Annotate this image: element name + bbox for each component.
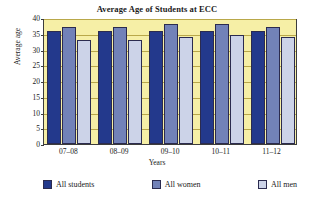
x-axis-title: Years (0, 158, 314, 167)
legend-swatch-icon (43, 180, 52, 189)
y-tick-label: 10 (16, 110, 40, 118)
legend-label: All students (56, 180, 94, 189)
y-axis-ticks: 0510152025303540 (14, 19, 40, 145)
x-tick-label: 07–08 (43, 147, 93, 157)
bar-group (47, 20, 91, 144)
bar (251, 31, 265, 144)
y-tick-label: 5 (16, 125, 40, 133)
y-tick-label: 15 (16, 94, 40, 102)
y-tick-mark (41, 145, 44, 146)
bar (149, 31, 163, 144)
x-tick-label: 09–10 (145, 147, 195, 157)
y-tick-label: 20 (16, 78, 40, 86)
bar (98, 31, 112, 144)
legend-entry[interactable]: All men (258, 180, 297, 189)
chart-legend: All studentsAll womenAll men (43, 177, 297, 191)
chart-title: Average Age of Students at ECC (0, 4, 314, 14)
legend-entry[interactable]: All students (43, 180, 94, 189)
bar-group (251, 20, 295, 144)
bar-group (200, 20, 244, 144)
bar (179, 37, 193, 144)
bar (62, 27, 76, 144)
x-tick-label: 11–12 (247, 147, 297, 157)
legend-label: All women (165, 180, 201, 189)
bar (215, 24, 229, 144)
bar (47, 31, 61, 144)
bar-group (149, 20, 193, 144)
legend-swatch-icon (152, 180, 161, 189)
x-tick-label: 10–11 (196, 147, 246, 157)
y-tick-label: 30 (16, 47, 40, 55)
bar (77, 40, 91, 144)
legend-label: All men (271, 180, 297, 189)
legend-swatch-icon (258, 180, 267, 189)
bar (230, 35, 244, 144)
y-tick-label: 0 (16, 141, 40, 149)
bar-group (98, 20, 142, 144)
bar (164, 24, 178, 144)
x-tick-label: 08–09 (94, 147, 144, 157)
bar (281, 37, 295, 144)
bar (113, 27, 127, 144)
bar-chart-figure: Average Age of Students at ECC Average a… (0, 0, 314, 197)
legend-entry[interactable]: All women (152, 180, 201, 189)
bar (266, 27, 280, 144)
y-tick-label: 35 (16, 31, 40, 39)
y-tick-label: 40 (16, 15, 40, 23)
plot-area (43, 19, 297, 145)
bar (200, 31, 214, 144)
y-tick-label: 25 (16, 62, 40, 70)
bar (128, 40, 142, 144)
